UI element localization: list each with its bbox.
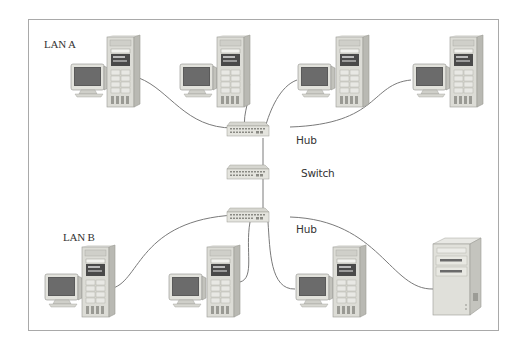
hub-b-label: Hub: [296, 223, 317, 235]
switch-label: Switch: [301, 167, 335, 179]
hub-a-label: Hub: [296, 134, 317, 146]
lan-b-label: LAN B: [63, 231, 95, 243]
lan-a-label: LAN A: [44, 38, 76, 50]
diagram-frame: [28, 19, 499, 331]
